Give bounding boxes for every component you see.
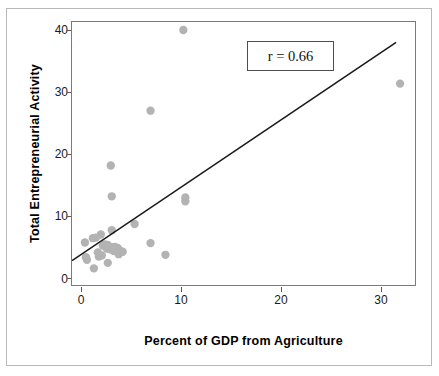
- data-point: [107, 161, 115, 169]
- data-point: [181, 197, 189, 205]
- y-axis-title: Total Entrepreneurial Activity: [28, 21, 48, 286]
- x-axis-title: Percent of GDP from Agriculture: [71, 334, 416, 348]
- x-axis-tick-mark: [181, 287, 182, 292]
- plot-canvas: [72, 22, 415, 285]
- scatter-plot-figure: 010203040 0102030 Percent of GDP from Ag…: [0, 0, 439, 376]
- regression-line: [72, 42, 396, 260]
- data-point: [98, 251, 106, 259]
- x-axis-tick-mark: [281, 287, 282, 292]
- data-point: [146, 107, 154, 115]
- x-axis-tick-label: 10: [174, 294, 187, 306]
- data-points-group: [81, 26, 405, 273]
- data-point: [179, 26, 187, 34]
- data-point: [161, 251, 169, 259]
- data-point: [146, 239, 154, 247]
- data-point: [396, 79, 404, 87]
- plot-area: [71, 21, 416, 286]
- correlation-annotation-box: r = 0.66: [247, 41, 334, 71]
- data-point: [81, 238, 89, 246]
- data-point: [83, 256, 91, 264]
- data-point: [104, 259, 112, 267]
- x-axis-tick-label: 20: [274, 294, 287, 306]
- x-axis-tick-label: 0: [78, 294, 85, 306]
- correlation-value-label: r = 0.66: [268, 48, 314, 65]
- data-point: [119, 248, 127, 256]
- data-point: [90, 264, 98, 272]
- x-axis-tick-label: 30: [374, 294, 387, 306]
- x-axis-tick-mark: [81, 287, 82, 292]
- x-axis: 0102030: [71, 287, 416, 313]
- data-point: [97, 230, 105, 238]
- data-point: [108, 192, 116, 200]
- x-axis-tick-mark: [381, 287, 382, 292]
